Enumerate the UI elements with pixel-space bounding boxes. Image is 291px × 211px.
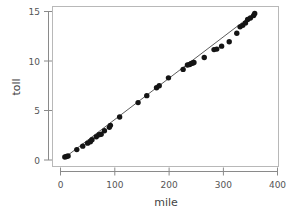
y-tick-label-5: 5 [34, 106, 40, 116]
data-point [80, 143, 85, 148]
y-tick-label-0: 0 [34, 156, 40, 166]
data-point [166, 75, 171, 80]
x-tick-label-400: 400 [269, 180, 286, 190]
chart-figure: 15 10 5 0 toll 0 100 200 300 400 mile [0, 0, 291, 211]
data-point [191, 60, 196, 65]
data-point [102, 128, 107, 133]
data-point [144, 93, 149, 98]
data-point [214, 46, 219, 51]
data-point [234, 31, 239, 36]
chart-background [0, 0, 291, 211]
y-axis-title: toll [10, 78, 23, 95]
data-point [157, 83, 162, 88]
data-point [202, 55, 207, 60]
x-tick-label-0: 0 [58, 180, 64, 190]
x-tick-label-200: 200 [161, 180, 178, 190]
data-point [117, 114, 122, 119]
x-tick-label-100: 100 [106, 180, 123, 190]
data-point [65, 153, 70, 158]
y-tick-label-15: 15 [29, 7, 40, 17]
x-axis-title: mile [154, 196, 178, 209]
data-point [180, 67, 185, 72]
data-point [227, 39, 232, 44]
y-tick-label-10: 10 [29, 57, 41, 67]
data-point [252, 11, 257, 16]
data-point [74, 147, 79, 152]
data-point [135, 100, 140, 105]
scatter-plot-svg: 15 10 5 0 toll 0 100 200 300 400 mile [0, 0, 291, 211]
data-point [108, 123, 113, 128]
data-point [219, 43, 224, 48]
x-tick-label-300: 300 [215, 180, 232, 190]
